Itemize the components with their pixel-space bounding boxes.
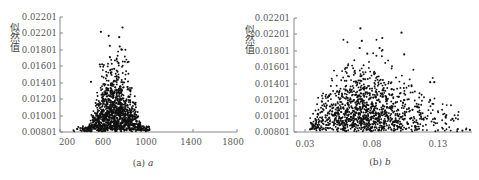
chart-b-ytick: 0.01201: [250, 95, 290, 105]
chart-a-xtick: 600: [83, 137, 123, 147]
chart-a-xtick: 1400: [171, 137, 211, 147]
chart-a-panel: 似然值 0.02201 0.02201 0.01801 0.01601 0.01…: [0, 0, 240, 180]
chart-a-ytick: 0.01401: [17, 78, 57, 88]
chart-a-xtick: 1000: [126, 137, 166, 147]
chart-a-ytick: 0.01001: [17, 111, 57, 121]
chart-a-ytick: 0.02201: [17, 12, 57, 22]
chart-a-ytick: 0.01801: [17, 45, 57, 55]
chart-b-xtick: 0.13: [418, 139, 458, 149]
chart-b-ytick: 0.01801: [250, 46, 290, 56]
chart-a-caption: (a) a: [103, 158, 183, 168]
chart-a-plot: [0, 0, 240, 180]
chart-b-ytick: 0.02201: [250, 13, 290, 23]
chart-a-ytick: 0.02201: [17, 28, 57, 38]
chart-b-ytick: 0.02201: [250, 29, 290, 39]
chart-a-ytick: 0.01201: [17, 94, 57, 104]
chart-a-ytick: 0.00801: [17, 127, 57, 137]
chart-b-xtick: 0.08: [352, 139, 392, 149]
chart-a-xtick: 200: [47, 137, 87, 147]
chart-b-ytick: 0.00801: [250, 127, 290, 137]
chart-b-plot: [240, 0, 479, 180]
chart-b-xtick: 0.03: [285, 139, 325, 149]
chart-b-ytick: 0.01601: [250, 62, 290, 72]
chart-b-panel: 似然值 0.02201 0.02201 0.01801 0.01601 0.01…: [240, 0, 479, 180]
chart-b-ytick: 0.01401: [250, 79, 290, 89]
chart-b-caption: (b) b: [340, 157, 420, 167]
chart-a-ytick: 0.01601: [17, 61, 57, 71]
chart-b-ytick: 0.01001: [250, 111, 290, 121]
